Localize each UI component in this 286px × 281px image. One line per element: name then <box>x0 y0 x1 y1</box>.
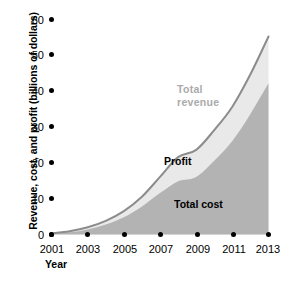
x-tick-label-2007: 2007 <box>144 244 178 255</box>
plot-area <box>0 0 286 281</box>
series-label-total-revenue: Total revenue <box>177 83 237 108</box>
x-tick-label-2001: 2001 <box>35 244 69 255</box>
series-label-profit: Profit <box>164 155 191 168</box>
x-tick-dot-2005 <box>122 232 127 237</box>
x-tick-label-2003: 2003 <box>71 244 105 255</box>
x-tick-label-2013: 2013 <box>251 244 285 255</box>
x-tick-dot-2009 <box>195 232 200 237</box>
x-tick-dot-2011 <box>231 232 236 237</box>
x-tick-dot-2001 <box>49 232 54 237</box>
x-axis-title: Year <box>36 258 76 270</box>
x-tick-label-2005: 2005 <box>108 244 142 255</box>
x-tick-label-2009: 2009 <box>181 244 215 255</box>
series-label-total-cost: Total cost <box>174 198 223 211</box>
x-tick-dot-2003 <box>85 232 90 237</box>
x-tick-label-2011: 2011 <box>217 244 251 255</box>
x-tick-dot-2007 <box>158 232 163 237</box>
chart-container: Revenue, cost, and profit (billions of d… <box>0 0 286 281</box>
series-label-total-revenue-line2: revenue <box>177 96 237 109</box>
series-label-total-revenue-line1: Total <box>177 83 237 96</box>
x-tick-dot-2013 <box>266 232 271 237</box>
